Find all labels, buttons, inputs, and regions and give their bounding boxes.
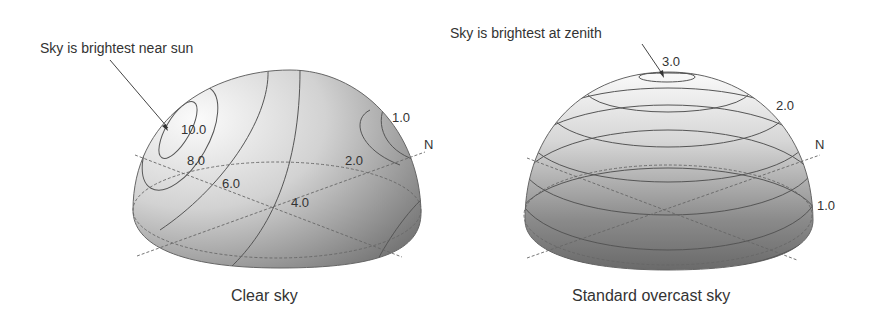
contour-label: 6.0 <box>222 176 240 191</box>
contour-label: 1.0 <box>817 198 835 213</box>
compass-north: N <box>424 137 433 152</box>
compass-north: N <box>815 137 824 152</box>
contour-label: 3.0 <box>662 54 680 69</box>
contour-label: 10.0 <box>181 122 206 137</box>
left-annotation: Sky is brightest near sun <box>40 40 193 56</box>
left-caption: Clear sky <box>231 287 298 304</box>
clear-sky-dome <box>127 70 425 268</box>
right-caption: Standard overcast sky <box>572 287 730 304</box>
sky-luminance-diagram: Sky is brightest near sun 10.0 8.0 6.0 4… <box>0 0 871 320</box>
contour-label: 1.0 <box>392 110 410 125</box>
overcast-sky-dome <box>518 68 820 272</box>
right-annotation: Sky is brightest at zenith <box>450 25 602 41</box>
contour-label: 4.0 <box>291 195 309 210</box>
contour-label: 8.0 <box>187 153 205 168</box>
contour-label: 2.0 <box>345 153 363 168</box>
contour-label: 2.0 <box>776 98 794 113</box>
